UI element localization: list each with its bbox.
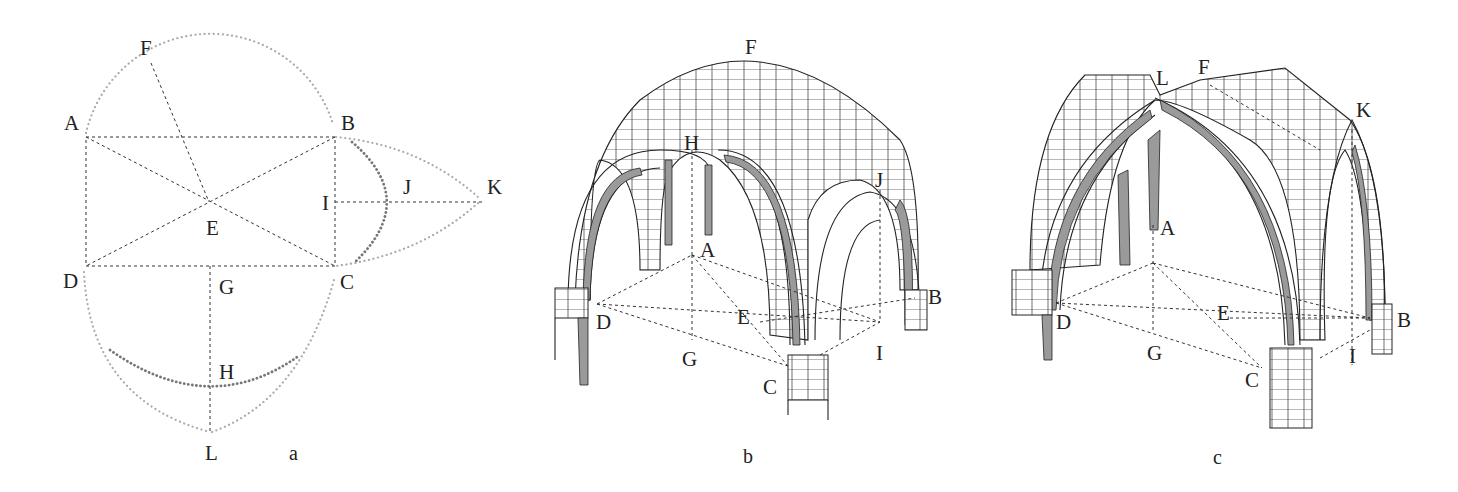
figure-c-label-A: A bbox=[1160, 218, 1175, 239]
figure-c-label-F: F bbox=[1198, 57, 1210, 78]
figure-c-caption: c bbox=[1213, 447, 1222, 467]
figure-c-label-B: B bbox=[1397, 310, 1411, 331]
figure-c-label-L: L bbox=[1156, 68, 1169, 89]
figure-c-label-K: K bbox=[1356, 100, 1371, 121]
figure-c-label-D: D bbox=[1056, 312, 1071, 333]
figure-c-label-C: C bbox=[1245, 370, 1259, 391]
figure-c-label-G: G bbox=[1147, 343, 1162, 364]
figure-c-label-I: I bbox=[1349, 346, 1356, 367]
figure-c-ribbed-vault-drawing bbox=[0, 0, 1458, 492]
figure-c-label-E: E bbox=[1217, 303, 1230, 324]
